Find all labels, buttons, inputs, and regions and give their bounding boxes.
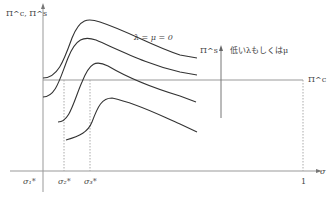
x-tick-sigma3: σ₃* [84,178,97,186]
arrow-label-pi: Π^s [200,47,218,55]
shift-arrow-head-icon [219,45,223,51]
x-axis-label: σ [320,168,325,176]
x-tick-sigma2: σ₂* [58,178,71,186]
y-axis-label: Π^c, Π^s [6,10,47,18]
curve-4 [66,98,197,140]
curve-3 [58,63,196,122]
x-tick-one: 1 [301,178,306,186]
hline-label: Π^c [308,76,326,84]
curve-label: λ = μ = 0 [134,34,173,42]
arrow-label-text: 低いλもしくはμ [230,47,288,55]
diagram-canvas [0,0,328,198]
curve-2 [43,38,197,97]
x-tick-sigma1: σ₁* [23,178,36,186]
curve-1 [43,20,197,78]
